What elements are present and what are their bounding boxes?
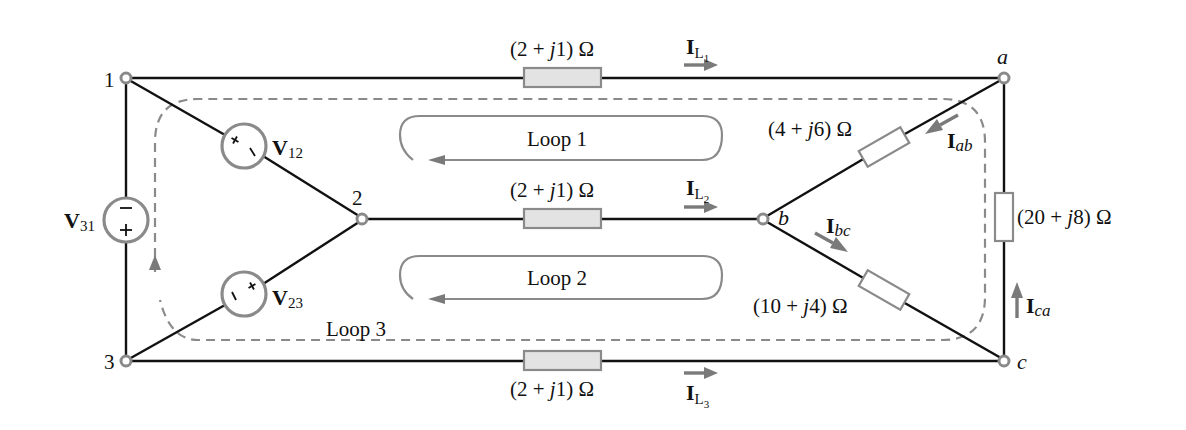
line3-impedance-label: (2 + j1) Ω bbox=[510, 377, 594, 401]
node-a bbox=[999, 73, 1009, 83]
node-b bbox=[758, 214, 768, 224]
v23-label: V23 bbox=[272, 285, 303, 311]
loop3-arrowhead bbox=[149, 255, 161, 270]
load-ca-impedance-label: (20 + j8) Ω bbox=[1017, 205, 1112, 229]
line1-impedance-label: (2 + j1) Ω bbox=[510, 37, 594, 61]
il2-arrow bbox=[684, 201, 718, 213]
node-1-label: 1 bbox=[104, 68, 115, 92]
three-phase-circuit-diagram: 1 2 3 a b c V12 V23 V31 (2 + j1) Ω (2 + … bbox=[0, 0, 1186, 430]
v23-source bbox=[222, 272, 266, 316]
node-c-label: c bbox=[1017, 349, 1027, 374]
node-3 bbox=[121, 356, 131, 366]
load-ab-impedance-label: (4 + j6) Ω bbox=[768, 117, 852, 141]
load-ab-resistor bbox=[859, 127, 910, 167]
il2-label: IL2 bbox=[686, 175, 709, 205]
ibc-label: Ibc bbox=[826, 213, 851, 240]
node-c bbox=[999, 356, 1009, 366]
ica-label: Ica bbox=[1026, 293, 1051, 320]
node-3-label: 3 bbox=[104, 350, 115, 374]
line1-resistor bbox=[524, 68, 601, 87]
node-1 bbox=[121, 73, 131, 83]
il3-arrow bbox=[684, 367, 718, 379]
node-a-label: a bbox=[997, 44, 1008, 69]
il3-label: IL3 bbox=[686, 380, 710, 410]
load-bc-resistor bbox=[859, 270, 910, 310]
node-b-label: b bbox=[778, 205, 789, 230]
loop3-label: Loop 3 bbox=[326, 317, 386, 341]
v12-label: V12 bbox=[272, 135, 303, 161]
load-ca-resistor bbox=[995, 193, 1013, 241]
il1-label: IL1 bbox=[686, 34, 709, 64]
ica-arrow bbox=[1011, 282, 1023, 318]
iab-label: Iab bbox=[947, 128, 973, 155]
loop2-label: Loop 2 bbox=[527, 266, 587, 290]
line3-resistor bbox=[524, 351, 601, 370]
v31-label: V31 bbox=[64, 208, 95, 234]
node-2-label: 2 bbox=[352, 186, 363, 210]
v12-source bbox=[222, 124, 266, 168]
line2-resistor bbox=[524, 209, 601, 228]
loop1-label: Loop 1 bbox=[527, 127, 587, 151]
v31-source bbox=[104, 198, 148, 242]
node-2 bbox=[357, 214, 367, 224]
line2-impedance-label: (2 + j1) Ω bbox=[510, 178, 594, 202]
load-bc-impedance-label: (10 + j4) Ω bbox=[753, 294, 848, 318]
